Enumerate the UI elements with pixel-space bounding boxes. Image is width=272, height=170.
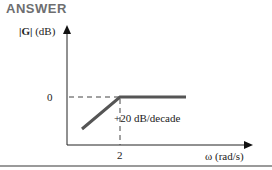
y-axis-arrow-icon <box>63 25 71 34</box>
bode-plot: |G| (dB) 0 +20 dB/decade 2 ω (rad/s) <box>0 0 272 170</box>
y-tick-label-0: 0 <box>47 91 53 103</box>
y-axis-label: |G| (dB) <box>19 25 56 38</box>
x-axis-arrow-icon <box>244 141 253 149</box>
bottom-divider <box>0 165 272 167</box>
x-tick-label-2: 2 <box>117 149 123 161</box>
slope-annotation: +20 dB/decade <box>114 112 180 124</box>
x-axis-label: ω (rad/s) <box>205 150 244 163</box>
